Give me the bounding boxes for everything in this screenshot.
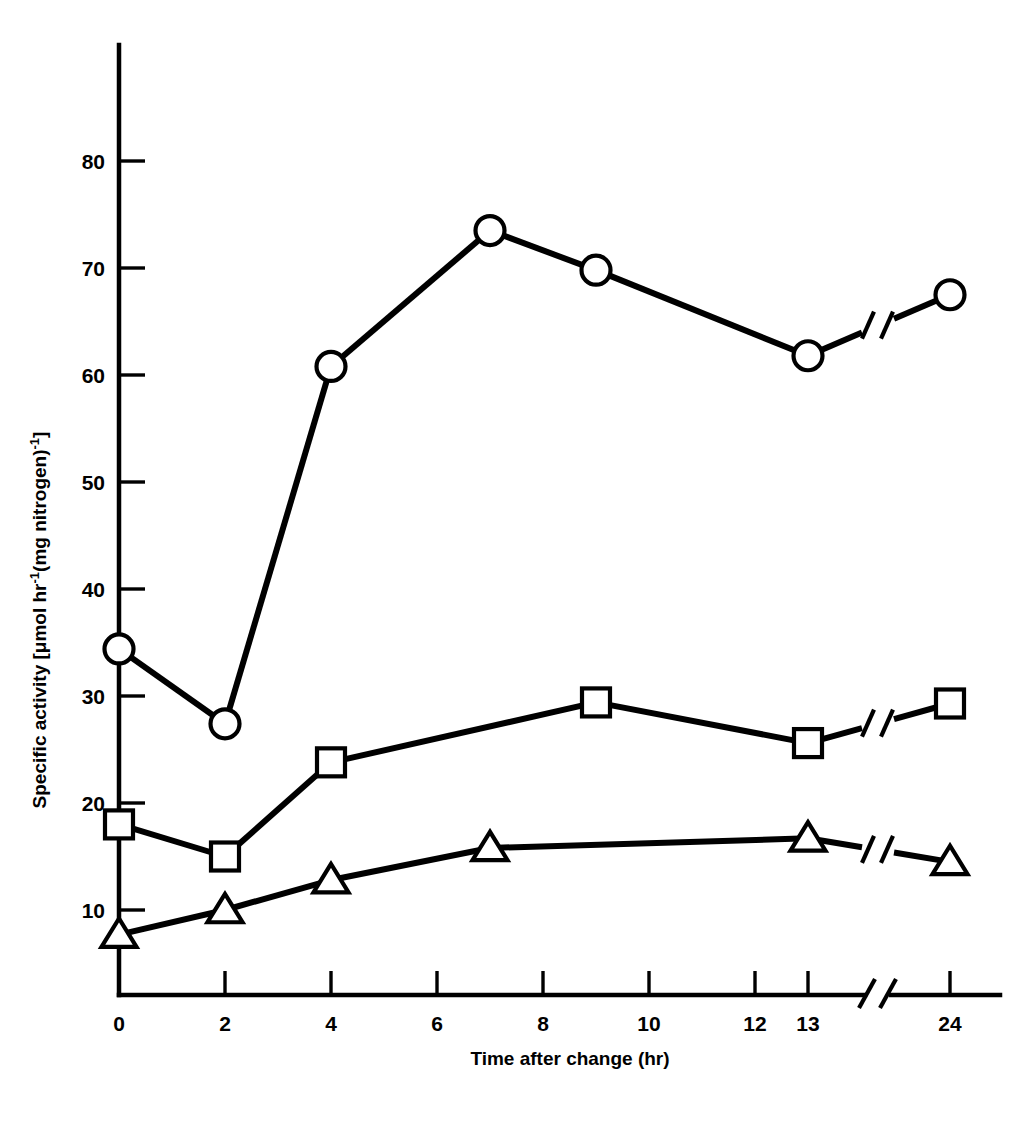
- data-point-circle: [582, 256, 611, 285]
- data-point-circle: [317, 352, 346, 381]
- x-tick-label: 0: [113, 1012, 125, 1035]
- y-tick-label: 70: [82, 257, 105, 280]
- y-axis-title-mid: (mg nitrogen): [29, 449, 50, 571]
- series-segment: [490, 231, 596, 271]
- y-tick-label: 20: [82, 792, 105, 815]
- figure-container: Specific activity [μmol hr-1(mg nitrogen…: [0, 0, 1021, 1124]
- y-tick-label: 50: [82, 471, 105, 494]
- data-point-circle: [105, 634, 134, 663]
- series-segment: [596, 702, 808, 743]
- y-tick-label: 40: [82, 578, 105, 601]
- svg-text:Specific activity [μmol hr-1(m: Specific activity [μmol hr-1(mg nitrogen…: [27, 432, 50, 809]
- y-tick-label: 10: [82, 899, 105, 922]
- x-tick-label: 8: [537, 1012, 549, 1035]
- data-point-circle: [936, 280, 965, 309]
- series-segment: [225, 366, 331, 723]
- series-segment: [490, 838, 808, 848]
- axes-layer: [119, 45, 1000, 1008]
- line-chart: Specific activity [μmol hr-1(mg nitrogen…: [0, 0, 1021, 1124]
- data-point-circle: [794, 341, 823, 370]
- series-layer: [102, 216, 968, 947]
- series-segment: [331, 702, 596, 762]
- series-break-slash-1: [862, 710, 874, 737]
- series-segment: [331, 848, 490, 880]
- series-segment: [331, 231, 490, 367]
- series-break-slash-1: [862, 312, 874, 339]
- data-point-square: [211, 843, 239, 871]
- data-point-circle: [211, 709, 240, 738]
- y-tick-label: 60: [82, 364, 105, 387]
- x-tick-label: 13: [796, 1012, 819, 1035]
- y-tick-label: 80: [82, 150, 105, 173]
- data-point-square: [936, 689, 964, 717]
- data-point-square: [794, 729, 822, 757]
- data-point-circle: [476, 216, 505, 245]
- series-break-slash-1: [862, 836, 874, 863]
- y-tick-label: 30: [82, 685, 105, 708]
- series-segment: [596, 270, 808, 356]
- x-tick-label: 10: [637, 1012, 660, 1035]
- x-axis-title: Time after change (hr): [470, 1048, 669, 1069]
- y-axis-title: Specific activity [μmol hr-1(mg nitrogen…: [27, 432, 50, 809]
- open-circle-series: [105, 216, 965, 738]
- x-tick-label: 24: [938, 1012, 962, 1035]
- data-point-square: [582, 688, 610, 716]
- series-break-slash-2: [881, 710, 893, 737]
- y-axis-title-suffix: ]: [29, 432, 50, 438]
- tick-labels-layer: 10203040506070800246810121324: [82, 150, 962, 1035]
- series-segment: [225, 880, 331, 910]
- series-break-slash-2: [881, 312, 893, 339]
- data-point-square: [317, 748, 345, 776]
- series-segment: [119, 649, 225, 724]
- data-point-square: [105, 810, 133, 838]
- x-tick-label: 4: [325, 1012, 337, 1035]
- series-break-slash-2: [881, 836, 893, 863]
- x-tick-label: 6: [431, 1012, 443, 1035]
- y-axis-title-unit: μmol hr: [29, 583, 50, 653]
- y-axis-title-prefix: Specific activity [: [29, 653, 50, 809]
- x-tick-label: 2: [219, 1012, 231, 1035]
- y-axis-title-sup-2: -1: [27, 438, 42, 450]
- x-tick-label: 12: [743, 1012, 766, 1035]
- y-axis-title-sup-1: -1: [27, 572, 42, 584]
